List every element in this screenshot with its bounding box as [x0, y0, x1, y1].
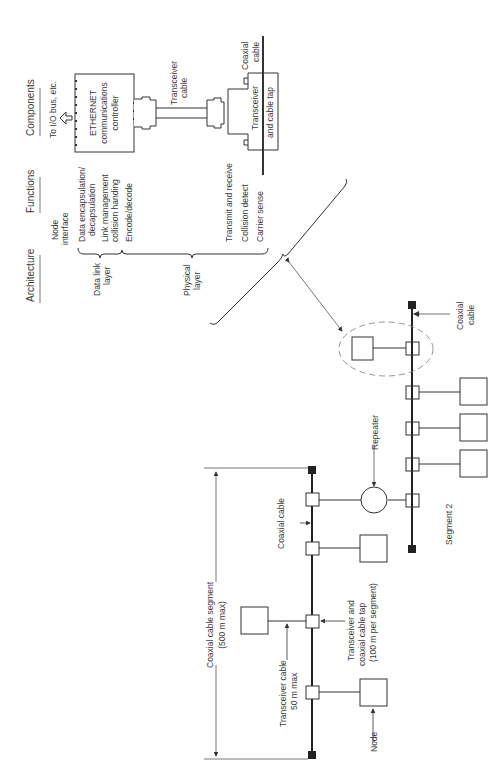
node-label: Node	[369, 731, 379, 752]
components-column: To I/O bus, etc. ETHERNET communications…	[48, 36, 278, 175]
segment2-coax-label: Coaxial	[455, 302, 465, 330]
function-link-management: Link management	[100, 174, 110, 242]
node-box-left	[241, 607, 268, 634]
coaxial-cable-label: Coaxial	[240, 42, 250, 70]
function-carrier-sense: Carrier sense	[255, 191, 265, 242]
segment-1: Coaxial cable segment (500 m max) Coaxia…	[204, 466, 387, 759]
transceiver-cable-label: Transceiver	[169, 61, 179, 105]
coaxial-cable-label-2: cable	[251, 41, 261, 62]
tap-label-2: coaxial cable tap	[357, 602, 367, 666]
data-link-layer-label: Data link	[92, 262, 102, 296]
header-architecture: Architecture	[25, 248, 36, 302]
coax-segment-label: Coaxial cable segment	[205, 581, 215, 668]
transceiver-cable-len-label-2: 50 m max	[289, 672, 299, 710]
node-box-bottom	[360, 679, 387, 706]
column-headers: Architecture Functions Components	[25, 79, 40, 303]
segment2-label: Segment 2	[444, 504, 454, 545]
coax-segment-label-2: (500 m max)	[217, 601, 227, 649]
functions-column: Node interface Data encapsulation/ decap…	[50, 163, 265, 245]
function-encode-decode: Encode/decode	[124, 183, 134, 242]
physical-layer-label: Physical	[182, 264, 192, 296]
function-collision-handling: collision handing	[110, 179, 120, 242]
function-data-encapsulation: Data encapsulation/	[77, 166, 87, 242]
repeater-label: Repeater	[370, 415, 380, 450]
data-link-layer-label-2: layer	[102, 266, 112, 285]
tap-label-3: (100 m per segment)	[368, 583, 378, 662]
function-data-decapsulation: decapsulation	[87, 183, 97, 236]
function-node-interface: Node	[50, 219, 60, 240]
physical-layer-label-2: layer	[192, 271, 202, 290]
ethernet-architecture-diagram: Architecture Functions Components Data l…	[0, 0, 504, 775]
node-box	[352, 337, 373, 360]
header-functions: Functions	[25, 170, 36, 213]
segment-2: Coaxial cable Repeater Segment 2	[319, 301, 487, 553]
controller-label-2: communications	[99, 82, 109, 143]
function-collision-detect: Collision detect	[240, 184, 250, 242]
coaxial-cable-label-seg1: Coaxial cable	[276, 498, 286, 549]
segment2-coax-label-2: cable	[466, 304, 476, 325]
controller-connector	[134, 97, 156, 129]
function-transmit-receive: Transmit and receive	[224, 163, 234, 242]
transceiver-connector	[207, 98, 224, 128]
io-bus-label: To I/O bus, etc.	[48, 81, 58, 138]
transceiver-cable-label-2: cable	[179, 77, 189, 98]
function-node-interface-2: interface	[60, 212, 70, 245]
controller-label-3: controller	[110, 95, 120, 130]
tap-label-1: Transceiver and	[346, 600, 356, 661]
transceiver-tap-label-2: and cable tap	[265, 87, 275, 138]
transceiver-cable-len-label: Transceiver cable	[278, 660, 288, 727]
controller-label-1: ETHERNET	[88, 90, 98, 136]
io-bus-arrow-icon	[60, 112, 72, 124]
transceiver-tap-label: Transceiver	[250, 86, 260, 130]
repeater-icon	[361, 487, 387, 513]
architecture-column: Data link layer Physical layer	[78, 248, 268, 296]
header-components: Components	[25, 79, 36, 136]
